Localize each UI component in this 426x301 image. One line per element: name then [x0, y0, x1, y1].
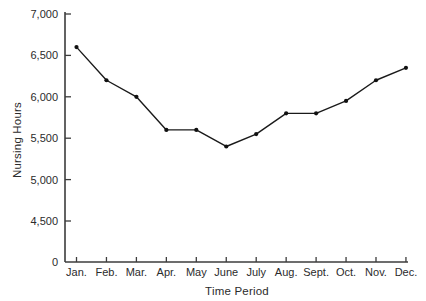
- x-tick-label: Dec.: [395, 266, 418, 278]
- data-point: [344, 99, 348, 103]
- data-point: [254, 132, 258, 136]
- y-tick-label: 7,000: [30, 8, 58, 20]
- y-axis-labels: 7,0006,5006,0005,5005,0004,5000: [30, 8, 58, 268]
- y-tick-label: 6,500: [30, 49, 58, 61]
- data-point: [134, 95, 138, 99]
- data-points: [74, 45, 408, 149]
- chart-canvas: 7,0006,5006,0005,5005,0004,5000Jan.Feb.M…: [0, 0, 426, 301]
- x-tick-label: Aug.: [275, 266, 298, 278]
- y-axis-title: Nursing Hours: [11, 102, 23, 178]
- axes: [65, 12, 408, 262]
- data-point: [164, 128, 168, 132]
- x-axis-title: Time Period: [205, 285, 269, 297]
- x-axis-labels: Jan.Feb.Mar.Apr.MayJuneJulyAug.Sept.Oct.…: [66, 266, 417, 278]
- data-point: [224, 144, 228, 148]
- y-tick-label: 4,500: [30, 215, 58, 227]
- data-point: [74, 45, 78, 49]
- x-tick-label: Apr.: [157, 266, 177, 278]
- x-tick-label: Oct.: [336, 266, 356, 278]
- x-tick-label: Nov.: [365, 266, 387, 278]
- data-point: [104, 78, 108, 82]
- data-line: [77, 47, 406, 146]
- x-tick-label: June: [214, 266, 238, 278]
- data-point: [314, 111, 318, 115]
- data-point: [194, 128, 198, 132]
- y-tick-label: 5,000: [30, 174, 58, 186]
- y-tick-label: 6,000: [30, 91, 58, 103]
- x-tick-label: Mar.: [126, 266, 147, 278]
- y-axis-ticks: [65, 14, 71, 221]
- x-tick-label: Sept.: [303, 266, 329, 278]
- x-tick-label: Feb.: [95, 266, 117, 278]
- data-point: [374, 78, 378, 82]
- line-chart-svg: 7,0006,5006,0005,5005,0004,5000Jan.Feb.M…: [0, 0, 426, 301]
- y-tick-label: 5,500: [30, 132, 58, 144]
- x-tick-label: May: [186, 266, 207, 278]
- data-point: [284, 111, 288, 115]
- y-tick-label: 0: [52, 256, 58, 268]
- x-tick-label: July: [246, 266, 266, 278]
- data-point: [404, 66, 408, 70]
- x-tick-label: Jan.: [66, 266, 87, 278]
